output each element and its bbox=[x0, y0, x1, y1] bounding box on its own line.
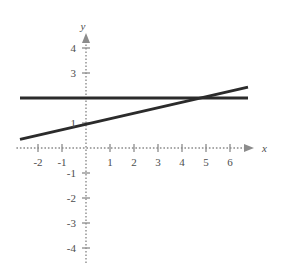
x-tick-label: -2 bbox=[33, 156, 42, 168]
y-tick-label: -2 bbox=[67, 192, 76, 204]
x-tick-label: 1 bbox=[107, 156, 113, 168]
graph-figure: -2-1123456-4-3-2-1134 x y bbox=[0, 0, 286, 270]
y-tick-label: 3 bbox=[71, 67, 77, 79]
y-tick-label: 4 bbox=[71, 42, 77, 54]
x-tick-label: 2 bbox=[131, 156, 137, 168]
x-tick-label: 4 bbox=[179, 156, 185, 168]
x-tick-label: -1 bbox=[57, 156, 66, 168]
y-tick-label: 1 bbox=[71, 117, 77, 129]
y-axis-label: y bbox=[80, 20, 86, 32]
x-tick-label: 5 bbox=[203, 156, 209, 168]
x-tick-label: 3 bbox=[155, 156, 161, 168]
x-axis-label: x bbox=[261, 142, 267, 154]
x-tick-label: 6 bbox=[227, 156, 233, 168]
y-tick-label: -3 bbox=[67, 217, 77, 229]
coordinate-plot: -2-1123456-4-3-2-1134 x y bbox=[0, 0, 286, 270]
y-tick-label: -1 bbox=[67, 167, 76, 179]
y-tick-label: -4 bbox=[67, 242, 77, 254]
